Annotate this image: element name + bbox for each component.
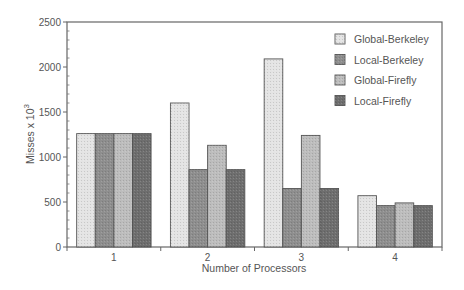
- y-tick-label: 2500: [39, 17, 62, 28]
- x-tick-label: 4: [392, 252, 398, 263]
- legend-label: Global-Firefly: [354, 74, 417, 86]
- x-axis-title: Number of Processors: [202, 262, 306, 274]
- legend-label: Local-Berkeley: [354, 54, 424, 66]
- y-axis-title: Misses x 103: [22, 104, 36, 164]
- y-tick-label: 1500: [39, 107, 62, 118]
- legend-label: Global-Berkeley: [354, 33, 429, 45]
- y-tick-label: 500: [44, 197, 61, 208]
- legend-label: Local-Firefly: [354, 95, 412, 107]
- y-tick-label: 1000: [39, 152, 62, 163]
- bar-chart: 050010001500200025001234 Global-Berkeley…: [0, 0, 464, 290]
- x-tick-label: 1: [111, 252, 117, 263]
- y-tick-label: 2000: [39, 62, 62, 73]
- y-tick-label: 0: [55, 242, 61, 253]
